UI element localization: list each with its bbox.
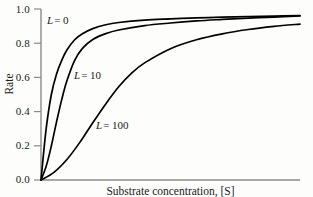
curve-label-equals: = [103,119,109,131]
plot-area [0,0,313,197]
y-axis-title: Rate [3,61,15,107]
x-axis-title: Substrate concentration, [S] [41,185,300,197]
chart-figure: 1.0 0.8 0.6 0.4 0.2 0.0 Rate Substrate c… [0,0,313,197]
curve-label-value: 100 [112,119,129,131]
curve-label-L-100: L= 100 [96,119,129,131]
curve-label-value: 0 [63,14,69,26]
curve-label-equals: = [54,14,60,26]
curve-label-equals: = [81,69,87,81]
y-tick-label-0.2: 0.2 [2,139,30,151]
curve-L-0 [41,16,300,181]
y-tick-label-0.0: 0.0 [2,173,30,185]
curve-L-100 [41,24,300,180]
curve-label-L-10: L= 10 [74,69,101,81]
y-axis-ticks [34,9,41,180]
curve-L-10 [41,16,300,180]
y-tick-label-0.8: 0.8 [2,37,30,49]
curve-label-value: 10 [90,69,101,81]
y-tick-label-1.0: 1.0 [2,3,30,15]
data-curves [41,16,300,181]
curve-label-L-0: L= 0 [47,14,69,26]
